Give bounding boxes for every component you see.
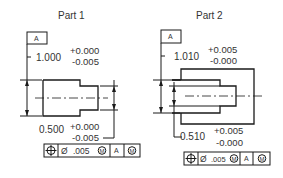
svg-text:M: M — [260, 156, 265, 162]
dim-nominal: 0.510 — [180, 131, 205, 142]
mmc-modifier-icon: M — [128, 147, 136, 155]
position-icon — [46, 145, 57, 156]
part-2-hole-block — [172, 69, 262, 124]
fcf-datum: A — [114, 147, 119, 154]
mmc-modifier-icon: M — [230, 155, 238, 163]
dim-nominal: 1.010 — [174, 51, 199, 62]
position-icon — [186, 153, 197, 164]
part-2: Part 2 A 1.010 +0.005 -0.000 — [153, 10, 270, 165]
datum-label: A — [34, 35, 39, 42]
part-2-inner-dimension: 0.510 +0.005 -0.000 — [169, 82, 243, 148]
datum-label: A — [168, 33, 173, 40]
dim-nominal: 0.500 — [39, 124, 64, 135]
dim-tol-minus: -0.005 — [72, 132, 99, 143]
part-2-feature-control-frame: Ø .005 M A M — [184, 152, 270, 165]
diameter-symbol: Ø — [61, 146, 68, 156]
dim-tol-minus: -0.005 — [72, 56, 99, 67]
dim-tol-plus: +0.005 — [208, 44, 237, 55]
gdt-drawing: Part 1 A 1.000 +0.000 -0.005 — [0, 0, 283, 178]
fcf-datum: A — [244, 155, 249, 162]
dim-tol-plus: +0.000 — [70, 121, 99, 132]
part-2-outer-dimension: 1.010 +0.005 -0.000 — [153, 44, 237, 113]
fcf-tolerance: .005 — [73, 146, 90, 156]
mmc-modifier-icon: M — [98, 147, 106, 155]
part-2-title: Part 2 — [196, 10, 223, 21]
dim-tol-minus: -0.000 — [216, 137, 243, 148]
svg-text:M: M — [130, 148, 135, 154]
part-1-feature-control-frame: Ø .005 M A M — [44, 144, 140, 157]
dim-tol-minus: -0.000 — [210, 55, 237, 66]
svg-text:M: M — [232, 156, 237, 162]
dim-nominal: 1.000 — [36, 52, 61, 63]
dim-tol-plus: +0.000 — [70, 45, 99, 56]
part-1: Part 1 A 1.000 +0.000 -0.005 — [20, 10, 140, 157]
svg-text:M: M — [100, 148, 105, 154]
dim-tol-plus: +0.005 — [214, 125, 243, 136]
mmc-modifier-icon: M — [258, 155, 266, 163]
part-1-title: Part 1 — [58, 10, 85, 21]
fcf-tolerance: .005 — [211, 155, 226, 164]
part-1-shaft — [35, 80, 108, 116]
diameter-symbol: Ø — [200, 154, 207, 164]
part-1-inner-dimension: 0.500 +0.000 -0.005 — [39, 80, 118, 143]
